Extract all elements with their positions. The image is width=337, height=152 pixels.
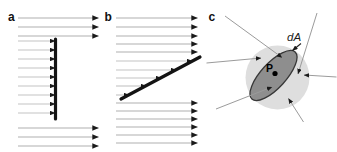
point-P-dot xyxy=(272,71,277,76)
panel-c: c P dA xyxy=(207,10,337,122)
figure-canvas: a b c P dA xyxy=(0,0,337,152)
flux-diagram-figure: a b c P dA xyxy=(0,0,337,152)
panel-b: b xyxy=(105,10,201,143)
dA-pointer-arrow xyxy=(293,44,302,51)
panel-a-label: a xyxy=(8,10,15,24)
field-ray-arrow xyxy=(225,16,282,58)
panel-a: a xyxy=(8,10,99,146)
panel-a-field-lines xyxy=(18,18,99,146)
panel-c-label: c xyxy=(209,10,216,24)
area-element-label: dA xyxy=(287,31,301,43)
point-P-label: P xyxy=(266,62,273,74)
panel-b-label: b xyxy=(105,10,112,24)
